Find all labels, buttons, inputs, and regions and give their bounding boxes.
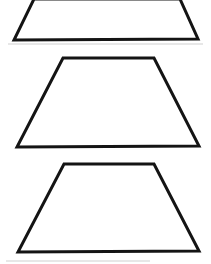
figure-canvas: [0, 0, 211, 264]
trapezoids-figure: [0, 0, 211, 264]
